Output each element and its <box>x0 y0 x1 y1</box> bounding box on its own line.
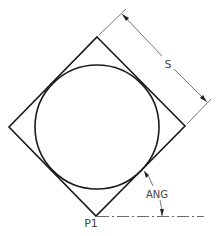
arrowhead-ang-top <box>144 171 149 178</box>
inscribed-circle <box>35 65 159 189</box>
arrowhead-ang-bottom <box>160 209 164 216</box>
dimension-label-s: S <box>165 58 172 71</box>
dimension-line-s-upper <box>122 14 162 56</box>
extension-line-right <box>187 99 211 124</box>
point-label-p1: P1 <box>84 217 98 230</box>
angle-label: ANG <box>146 189 168 200</box>
extension-line-top <box>99 9 126 35</box>
diagram-canvas: S ANG P1 <box>0 0 223 236</box>
